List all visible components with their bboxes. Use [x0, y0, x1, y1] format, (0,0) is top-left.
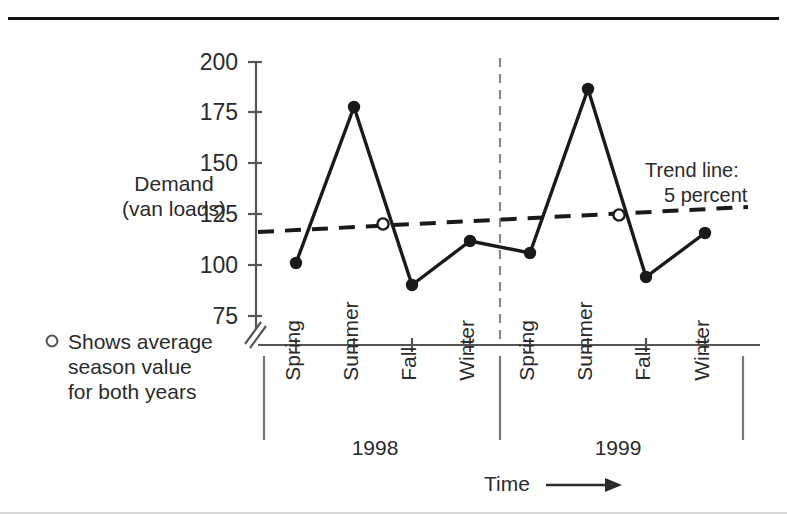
legend-line-1: Shows average: [68, 329, 213, 355]
x-axis-title: Time: [484, 472, 530, 497]
data-point-spring-1998: [290, 257, 302, 269]
legend-line-3: for both years: [68, 379, 196, 405]
figure-container: 200 175 150 125 100 75 Demand (van loads…: [0, 0, 787, 514]
year-group-label-1999: 1999: [573, 436, 663, 461]
time-arrow-icon: [546, 478, 622, 492]
trend-line-annotation-line1: Trend line:: [645, 158, 739, 183]
ytick-label-175: 175: [172, 99, 238, 126]
xtick-label-winter-1999: Winter: [690, 320, 715, 381]
legend-open-circle-icon: [47, 336, 58, 347]
data-point-spring-1999: [524, 247, 536, 259]
data-point-fall-1999: [640, 271, 652, 283]
data-point-winter-1999: [699, 227, 711, 239]
xtick-label-fall-1999: Fall: [631, 347, 656, 381]
ytick-label-200: 200: [172, 49, 238, 76]
ytick-label-100: 100: [172, 252, 238, 279]
average-marker-1999: [613, 209, 624, 220]
year-group-label-1998: 1998: [330, 436, 420, 461]
average-marker-1998: [377, 218, 388, 229]
trend-line-annotation-line2: 5 percent: [664, 183, 747, 208]
y-axis-title-line1: Demand: [104, 172, 244, 197]
xtick-label-summer-1998: Summer: [339, 301, 364, 380]
xtick-label-summer-1999: Summer: [573, 301, 598, 380]
year-group-separators: [264, 356, 743, 440]
data-point-winter-1998: [464, 235, 476, 247]
xtick-label-spring-1998: Spring: [281, 320, 306, 381]
legend-line-2: season value: [68, 354, 192, 380]
xtick-label-fall-1998: Fall: [397, 347, 422, 381]
xtick-label-winter-1998: Winter: [455, 320, 480, 381]
data-point-summer-1999: [582, 83, 594, 95]
trend-line: [258, 207, 748, 232]
data-point-summer-1998: [348, 101, 360, 113]
data-point-fall-1998: [406, 279, 418, 291]
ytick-label-75: 75: [172, 303, 238, 330]
y-axis-title-line2: (van loads): [94, 197, 254, 222]
xtick-label-spring-1999: Spring: [515, 320, 540, 381]
